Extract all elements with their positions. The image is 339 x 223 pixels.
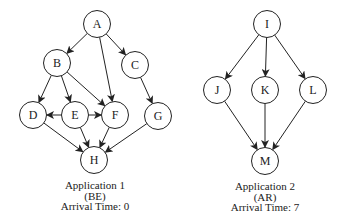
node-c: C bbox=[122, 52, 149, 79]
node-label: C bbox=[131, 58, 139, 72]
edge-i-to-k bbox=[265, 38, 266, 77]
edge-b-to-f bbox=[67, 72, 105, 106]
node-label: E bbox=[71, 108, 78, 122]
edge-b-to-e bbox=[61, 76, 70, 102]
application-1-nodes: ABCDEFGH bbox=[20, 11, 172, 174]
edge-j-to-m bbox=[225, 101, 258, 149]
node-label: D bbox=[29, 108, 38, 122]
node-label: G bbox=[154, 109, 163, 123]
edge-i-to-l bbox=[275, 35, 305, 78]
edge-a-to-b bbox=[67, 33, 87, 53]
node-label: I bbox=[265, 17, 269, 31]
node-h: H bbox=[81, 147, 108, 174]
node-label: K bbox=[261, 83, 270, 97]
node-f: F bbox=[102, 102, 129, 129]
node-a: A bbox=[84, 11, 111, 38]
edge-e-to-h bbox=[80, 127, 88, 147]
application-2-title: Application 2 bbox=[205, 181, 325, 192]
edge-c-to-g bbox=[141, 77, 153, 103]
node-label: F bbox=[112, 108, 119, 122]
edge-b-to-d bbox=[39, 75, 51, 102]
node-label: L bbox=[309, 83, 316, 97]
node-i: I bbox=[254, 11, 281, 38]
node-g: G bbox=[145, 103, 172, 130]
application-1-graph: ABCDEFGH bbox=[20, 11, 172, 174]
node-label: H bbox=[90, 153, 99, 167]
node-label: M bbox=[260, 154, 271, 168]
application-1-caption: Application 1 (BE) Arrival Time: 0 bbox=[35, 180, 155, 212]
application-2-arrival-time: Arrival Time: 7 bbox=[205, 202, 325, 213]
node-d: D bbox=[20, 102, 47, 129]
node-label: B bbox=[53, 56, 61, 70]
application-2-caption: Application 2 (AR) Arrival Time: 7 bbox=[205, 181, 325, 213]
node-k: K bbox=[252, 77, 279, 104]
edge-a-to-f bbox=[100, 37, 113, 101]
edge-f-to-h bbox=[100, 127, 109, 147]
edge-i-to-j bbox=[226, 35, 259, 79]
node-b: B bbox=[44, 50, 71, 77]
node-label: A bbox=[93, 17, 102, 31]
node-l: L bbox=[300, 77, 327, 104]
node-j: J bbox=[204, 77, 231, 104]
node-e: E bbox=[62, 102, 89, 129]
node-m: M bbox=[252, 148, 279, 175]
edge-a-to-c bbox=[106, 34, 125, 55]
edge-l-to-m bbox=[273, 101, 306, 149]
application-1-arrival-time: Arrival Time: 0 bbox=[35, 201, 155, 212]
application-2-nodes: IJKLM bbox=[204, 11, 327, 175]
application-2-graph: IJKLM bbox=[204, 11, 327, 175]
application-1-title: Application 1 bbox=[35, 180, 155, 191]
node-label: J bbox=[215, 83, 220, 97]
